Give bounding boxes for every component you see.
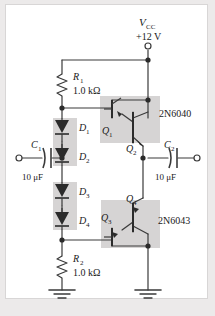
q1-sub-label: 1 [109,131,113,139]
capacitor-c1-plate-left [43,148,45,168]
circuit-diagram: V CC +12 V R 1 1.0 kΩ R 2 1.0 kΩ D 1 D 2… [0,0,215,316]
c1-ref-label: C [31,139,38,150]
resistor-r1-symbol [57,74,67,96]
ground-left [49,290,75,298]
input-terminal-icon[interactable] [16,155,22,161]
r2-sub-label: 2 [80,259,84,267]
r2-value-label: 1.0 kΩ [73,267,100,278]
node-vcc [145,57,150,62]
c1-sub-label: 1 [38,145,42,153]
d2-sub-label: 2 [86,157,90,165]
r2-ref-label: R [72,253,79,264]
d4-sub-label: 4 [86,221,90,229]
d3-sub-label: 3 [86,192,90,200]
resistor-r2-symbol [57,256,67,278]
node-input [59,155,64,160]
part-number-upper-label: 2N6040 [159,108,191,119]
component-highlight-boxes [53,96,160,248]
figure-container: V CC +12 V R 1 1.0 kΩ R 2 1.0 kΩ D 1 D 2… [0,0,215,316]
q3-sub-label: 3 [108,218,112,226]
c2-sub-label: 2 [171,145,175,153]
vcc-voltage-label: +12 V [136,31,162,42]
c2-value-label: 10 μF [155,172,176,182]
wiring [22,50,194,290]
node-bias-lower [59,237,64,242]
output-terminal-icon[interactable] [194,155,200,161]
c2-ref-label: C [164,139,171,150]
r1-sub-label: 1 [80,77,84,85]
vcc-subscript: CC [146,23,156,31]
ground-right [135,290,161,298]
c1-value-label: 10 μF [22,172,43,182]
part-number-lower-label: 2N6043 [158,215,190,226]
node-bias-upper [59,105,64,110]
q4-sub-label: 4 [133,199,137,207]
r1-ref-label: R [72,71,79,82]
vcc-terminal-icon[interactable] [145,43,151,49]
ground-symbols [49,290,161,298]
q2-sub-label: 2 [133,149,137,157]
r1-value-label: 1.0 kΩ [73,85,100,96]
node-output [140,155,145,160]
node-upper-collector [145,97,150,102]
d1-sub-label: 1 [86,128,90,136]
node-lower-collector [145,243,150,248]
